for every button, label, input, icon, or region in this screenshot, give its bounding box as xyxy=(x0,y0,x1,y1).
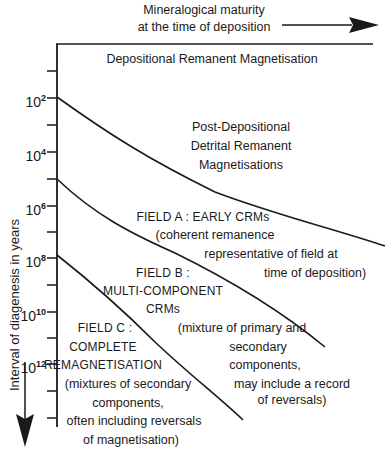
field-c-desc2: components, xyxy=(92,396,164,411)
field-b-title3: CRMs xyxy=(146,302,180,317)
pddrm-line2: Detrital Remanent xyxy=(191,139,292,154)
y-axis-label: Interval of diagenesis in years xyxy=(7,219,22,391)
field-a-desc3: time of deposition) xyxy=(264,266,366,281)
field-c-title3: REMAGNETISATION xyxy=(44,358,162,373)
field-a-desc1: (coherent remanence xyxy=(156,228,275,243)
top-axis-label-line1: Mineralogical maturity xyxy=(143,3,265,18)
field-b-title2: MULTI-COMPONENT xyxy=(103,284,223,299)
drm-title: Depositional Remanent Magnetisation xyxy=(106,52,317,67)
tick-label-10e6: 106 xyxy=(25,199,46,217)
field-b-desc5: of reversals) xyxy=(258,393,327,408)
field-c-desc4: of magnetisation) xyxy=(83,433,179,448)
tick-label-10e12: 1012 xyxy=(20,357,46,375)
field-c-title2: COMPLETE xyxy=(69,340,137,355)
tick-label-10e10: 1010 xyxy=(20,305,46,323)
tick-label-10e8: 108 xyxy=(25,251,46,269)
field-b-desc4: may include a record xyxy=(234,377,350,392)
field-b-desc2: secondary xyxy=(229,340,287,355)
tick-label-10e4: 104 xyxy=(25,145,46,163)
field-b-desc3: components, xyxy=(229,358,301,373)
field-b-desc1: (mixture of primary and xyxy=(178,321,307,336)
tick-label-10e2: 102 xyxy=(25,91,46,109)
field-c-desc1: (mixtures of secondary xyxy=(65,377,191,392)
arrow-right-icon xyxy=(282,17,379,33)
field-c-title1: FIELD C : xyxy=(78,321,132,336)
field-a-desc2: representative of field at xyxy=(204,247,337,262)
magnetisation-diagram: Mineralogical maturity at the time of de… xyxy=(0,0,387,454)
pddrm-line1: Post-Depositional xyxy=(192,120,290,135)
field-a-title: FIELD A : EARLY CRMs xyxy=(137,210,270,225)
field-c-desc3: often including reversals xyxy=(67,414,202,429)
field-b-title1: FIELD B : xyxy=(136,266,190,281)
top-axis-label-line2: at the time of deposition xyxy=(138,20,271,35)
pddrm-line3: Magnetisations xyxy=(199,158,283,173)
